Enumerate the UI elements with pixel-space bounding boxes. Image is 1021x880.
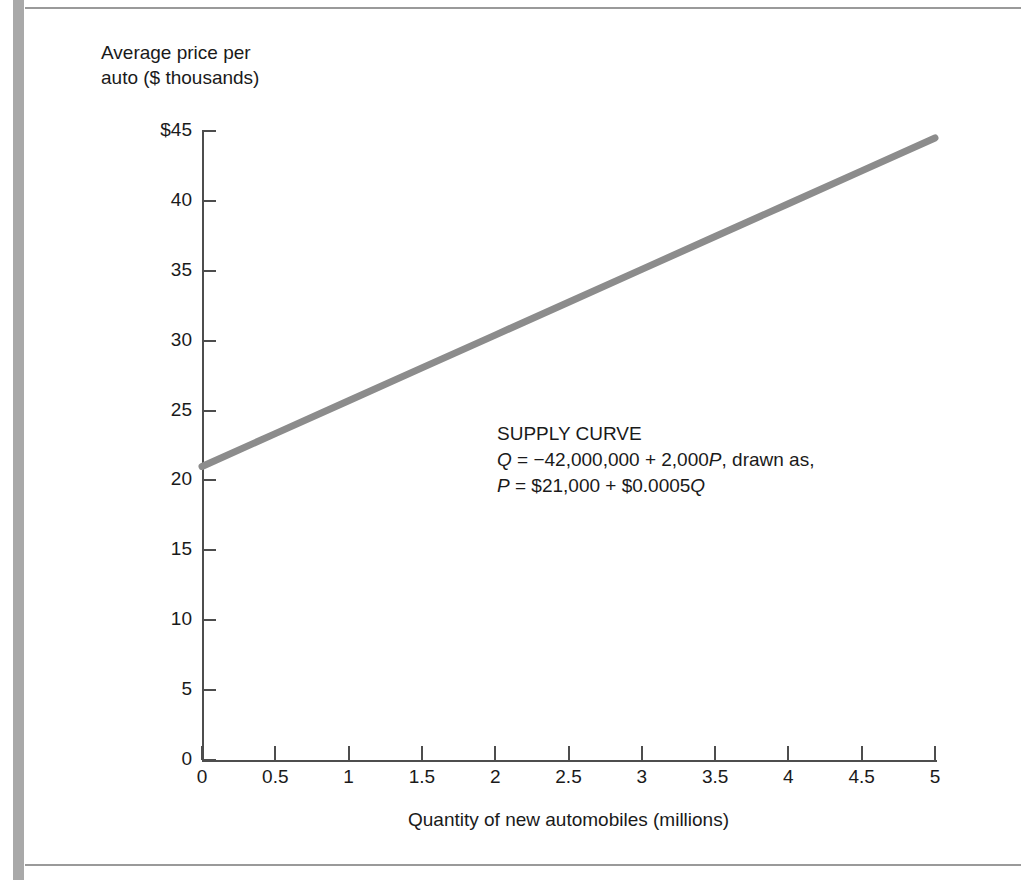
y-tick-label: 10	[132, 608, 192, 630]
x-tick-mark	[421, 746, 423, 760]
x-tick-label: 2.5	[539, 766, 599, 788]
y-tick-label: 25	[132, 399, 192, 421]
variable-p-inline: P	[709, 449, 722, 470]
x-tick-label: 4	[758, 766, 818, 788]
variable-q: Q	[497, 449, 512, 470]
y-tick-mark	[202, 759, 216, 761]
y-tick-label: 15	[132, 538, 192, 560]
x-tick-label: 0	[172, 766, 232, 788]
y-tick-mark	[202, 340, 216, 342]
x-tick-mark	[348, 746, 350, 760]
x-tick-label: 1.5	[392, 766, 452, 788]
x-tick-mark	[934, 746, 936, 760]
y-tick-label: 5	[132, 678, 192, 700]
x-tick-label: 3.5	[685, 766, 745, 788]
y-tick-mark	[202, 689, 216, 691]
x-tick-label: 4.5	[832, 766, 892, 788]
supply-curve-annotation: SUPPLY CURVE Q = −42,000,000 + 2,000P, d…	[497, 421, 814, 499]
equation-body-2: = −42,000,000 + 2,000	[512, 449, 709, 470]
variable-q-inline: Q	[690, 475, 705, 496]
plot-area: 0510152025303540$45 00.511.522.533.544.5…	[0, 0, 1021, 880]
figure-frame: Average price per auto ($ thousands) 051…	[0, 0, 1021, 880]
x-tick-mark	[787, 746, 789, 760]
x-tick-mark	[494, 746, 496, 760]
y-axis-spine	[202, 131, 204, 762]
y-tick-label: 35	[132, 259, 192, 281]
annotation-heading: SUPPLY CURVE	[497, 421, 814, 447]
x-tick-mark	[568, 746, 570, 760]
annotation-equation-price: P = $21,000 + $0.0005Q	[497, 473, 814, 499]
y-tick-mark	[202, 479, 216, 481]
equation-suffix-2: , drawn as,	[722, 449, 815, 470]
x-axis-title: Quantity of new automobiles (millions)	[202, 809, 935, 831]
y-tick-mark	[202, 130, 216, 132]
x-tick-mark	[714, 746, 716, 760]
variable-p: P	[497, 475, 510, 496]
y-tick-mark	[202, 200, 216, 202]
x-tick-label: 1	[319, 766, 379, 788]
y-tick-label: 40	[132, 189, 192, 211]
equation-body-3: = $21,000 + $0.0005	[510, 475, 691, 496]
x-tick-mark	[201, 746, 203, 760]
y-tick-mark	[202, 619, 216, 621]
x-tick-label: 2	[465, 766, 525, 788]
x-tick-mark	[861, 746, 863, 760]
x-tick-label: 3	[612, 766, 672, 788]
x-tick-mark	[641, 746, 643, 760]
x-tick-label: 5	[905, 766, 965, 788]
y-tick-label: $45	[132, 119, 192, 141]
y-tick-mark	[202, 270, 216, 272]
annotation-equation-quantity: Q = −42,000,000 + 2,000P, drawn as,	[497, 447, 814, 473]
x-tick-label: 0.5	[245, 766, 305, 788]
y-tick-label: 30	[132, 329, 192, 351]
x-tick-mark	[274, 746, 276, 760]
y-tick-mark	[202, 410, 216, 412]
y-tick-mark	[202, 549, 216, 551]
x-axis-spine	[202, 760, 937, 762]
y-tick-label: 20	[132, 468, 192, 490]
